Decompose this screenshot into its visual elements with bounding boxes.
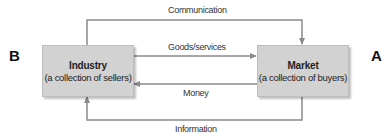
label-b: B (9, 47, 20, 64)
information-label: Information (175, 124, 217, 134)
market-subtitle: (a collection of buyers) (259, 72, 347, 84)
marketing-flow-diagram: B A Industry (a collection of sellers) M… (0, 0, 392, 139)
market-box: Market (a collection of buyers) (257, 45, 349, 97)
information-arrow (87, 96, 302, 120)
communication-label: Communication (168, 5, 227, 15)
goods-services-label: Goods/services (168, 42, 226, 52)
label-a: A (371, 47, 382, 64)
industry-box: Industry (a collection of sellers) (42, 45, 134, 97)
industry-title: Industry (69, 59, 107, 72)
market-title: Market (287, 59, 318, 72)
money-label: Money (183, 88, 209, 98)
industry-subtitle: (a collection of sellers) (44, 72, 131, 84)
